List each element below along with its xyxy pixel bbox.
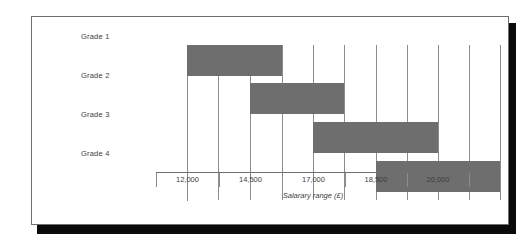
category-label-grade-1: Grade 1: [81, 32, 171, 41]
bar-grade-1: [187, 45, 282, 76]
x-axis-title: Salarary range (£): [156, 191, 470, 200]
x-tick-label: 20,000: [407, 175, 469, 184]
x-axis-tick-band: 12,000 14,500 17,000 18,500 20,000: [156, 173, 470, 187]
category-label-grade-3: Grade 3: [81, 110, 171, 119]
bar-grade-3: [313, 122, 438, 153]
x-tick-label: 17,000: [282, 175, 345, 184]
x-tick-label: 14,500: [219, 175, 282, 184]
chart-figure-frame: Grade 1 Grade 2 Grade 3 Grade 4 12,000 1…: [31, 16, 509, 225]
x-tick-label: 12,000: [156, 175, 219, 184]
category-label-grade-4: Grade 4: [81, 149, 171, 158]
gridline: [500, 45, 501, 200]
tick-separator: [469, 173, 470, 187]
bar-grade-2: [250, 83, 344, 114]
x-tick-label: 18,500: [345, 175, 407, 184]
category-label-grade-2: Grade 2: [81, 71, 171, 80]
